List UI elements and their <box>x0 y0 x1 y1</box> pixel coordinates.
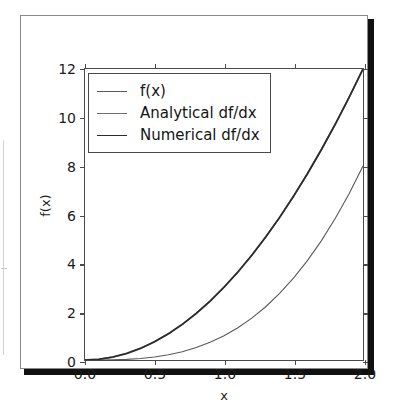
y-tick <box>80 167 85 168</box>
plot-area: 024681012 0.00.51.01.52.0 f(x) Analytica… <box>84 68 364 361</box>
page-edge-artifact <box>3 140 4 355</box>
legend-swatch-numerical <box>97 135 127 136</box>
y-tick-label: 2 <box>67 305 76 321</box>
y-tick <box>80 216 85 217</box>
y-tick-right <box>363 216 368 217</box>
page-edge-tick-mark <box>1 268 7 269</box>
legend-label-fx: f(x) <box>140 84 166 99</box>
legend-label-numerical: Numerical df/dx <box>140 128 260 143</box>
y-tick-label: 4 <box>67 256 76 272</box>
x-tick-label: 1.5 <box>284 366 306 382</box>
x-tick <box>295 360 296 365</box>
y-tick <box>80 313 85 314</box>
x-tick-label: 0.0 <box>74 366 96 382</box>
x-axis-label: x <box>84 388 364 402</box>
x-tick <box>365 360 366 365</box>
y-tick-label: 8 <box>67 159 76 175</box>
x-tick <box>85 360 86 365</box>
x-tick-top <box>225 64 226 69</box>
y-tick-right <box>363 313 368 314</box>
y-tick-right <box>363 118 368 119</box>
y-tick-label: 6 <box>67 208 76 224</box>
x-tick-top <box>295 64 296 69</box>
figure-frame: 024681012 0.00.51.01.52.0 f(x) Analytica… <box>20 15 368 369</box>
legend-swatch-fx <box>97 91 127 92</box>
x-tick-top <box>85 64 86 69</box>
y-tick-right <box>363 69 368 70</box>
y-tick-right <box>363 167 368 168</box>
x-tick-top <box>365 64 366 69</box>
y-axis-label: f(x) <box>38 176 53 236</box>
x-tick-label: 1.0 <box>214 366 236 382</box>
y-tick <box>80 118 85 119</box>
y-tick-label: 10 <box>58 110 76 126</box>
x-tick-top <box>155 64 156 69</box>
x-tick-label: 2.0 <box>354 366 376 382</box>
legend-item: f(x) <box>97 80 260 102</box>
y-tick-label: 12 <box>58 61 76 77</box>
legend: f(x) Analytical df/dx Numerical df/dx <box>88 73 271 153</box>
y-tick-right <box>363 264 368 265</box>
legend-swatch-analytical <box>97 113 127 114</box>
legend-label-analytical: Analytical df/dx <box>140 106 257 121</box>
legend-item: Analytical df/dx <box>97 102 260 124</box>
x-tick <box>225 360 226 365</box>
series-line <box>85 166 363 360</box>
y-tick <box>80 264 85 265</box>
y-tick <box>80 69 85 70</box>
legend-item: Numerical df/dx <box>97 124 260 146</box>
x-tick <box>155 360 156 365</box>
x-tick-label: 0.5 <box>144 366 166 382</box>
